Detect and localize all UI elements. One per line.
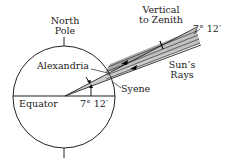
- north-pole-label: North Pole: [49, 16, 81, 36]
- angle-center-label: 7° 12′: [80, 99, 108, 109]
- suns-rays-label: Sun’s Rays: [166, 60, 198, 80]
- alexandria-label: Alexandria: [37, 61, 89, 71]
- angle-top-label: 7° 12′: [193, 24, 221, 34]
- vertical-line2: to Zenith: [137, 15, 185, 25]
- alexandria-leader: [91, 69, 108, 73]
- suns-line2: Rays: [166, 70, 198, 80]
- syene-label: Syene: [121, 84, 150, 94]
- vertical-to-zenith-label: Vertical to Zenith: [137, 5, 185, 25]
- eratosthenes-diagram: North Pole Vertical to Zenith 7° 12′ Ale…: [0, 0, 227, 165]
- north-pole-line2: Pole: [49, 26, 81, 36]
- equator-label: Equator: [19, 99, 58, 109]
